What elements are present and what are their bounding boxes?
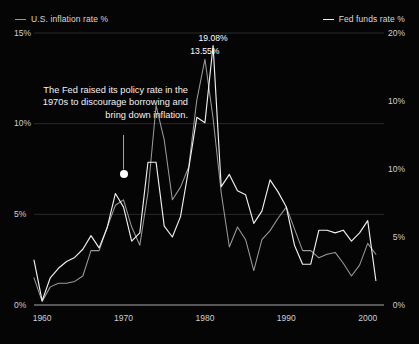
right-axis-tick: 10% bbox=[388, 96, 405, 106]
x-axis-tick: 1980 bbox=[195, 313, 214, 323]
right-axis-tick: 5% bbox=[393, 232, 405, 242]
annotation-marker-dot bbox=[120, 170, 128, 178]
left-axis-tick: 10% bbox=[14, 118, 31, 128]
legend-swatch-inflation bbox=[15, 19, 26, 20]
data-point-label: 13.55% bbox=[190, 46, 219, 56]
right-axis-tick: 0% bbox=[393, 300, 405, 310]
right-axis-tick: 10% bbox=[388, 164, 405, 174]
legend-label-fedfunds: Fed funds rate % bbox=[339, 14, 405, 24]
x-axis-tick: 2000 bbox=[358, 313, 377, 323]
chart-legend: U.S. inflation rate % Fed funds rate % bbox=[0, 14, 419, 28]
left-axis-tick: 15% bbox=[14, 28, 31, 38]
chart-svg bbox=[34, 33, 384, 305]
legend-item-fedfunds: Fed funds rate % bbox=[323, 14, 405, 24]
left-axis-tick: 5% bbox=[14, 209, 26, 219]
legend-swatch-fedfunds bbox=[323, 19, 334, 20]
chart-canvas: U.S. inflation rate % Fed funds rate % 1… bbox=[0, 0, 419, 344]
legend-item-inflation: U.S. inflation rate % bbox=[15, 14, 108, 24]
x-axis-tick: 1970 bbox=[114, 313, 133, 323]
left-axis-tick: 0% bbox=[14, 300, 26, 310]
x-axis-tick: 1960 bbox=[33, 313, 52, 323]
right-axis-tick: 20% bbox=[388, 28, 405, 38]
x-axis-tick: 1990 bbox=[277, 313, 296, 323]
annotation-text: The Fed raised its policy rate in the 19… bbox=[33, 84, 188, 121]
data-point-label: 19.08% bbox=[198, 33, 227, 43]
legend-label-inflation: U.S. inflation rate % bbox=[31, 14, 108, 24]
plot-area bbox=[34, 33, 384, 305]
